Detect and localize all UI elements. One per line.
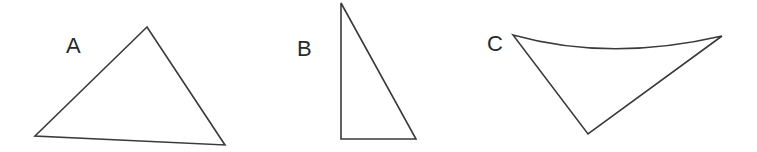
- shapes-canvas: [0, 0, 757, 152]
- label-a: A: [66, 35, 81, 57]
- label-b: B: [297, 38, 312, 60]
- triangle-a: [35, 27, 225, 145]
- label-c: C: [487, 33, 503, 55]
- triangle-figure: A B C: [0, 0, 757, 152]
- triangle-c: [513, 35, 722, 134]
- triangle-b: [341, 3, 416, 139]
